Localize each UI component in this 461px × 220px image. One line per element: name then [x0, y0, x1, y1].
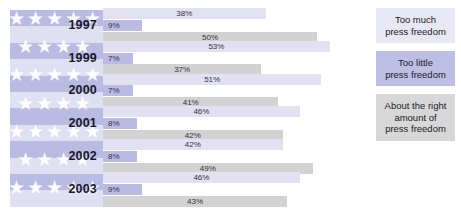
legend-item-too-much-line1: Too much	[378, 14, 453, 26]
bar-value-2000-toomuch: 51%	[103, 74, 321, 85]
legend-item-too-little[interactable]: Too little press freedom	[376, 51, 455, 86]
bar-value-2001-toomuch: 46%	[103, 106, 300, 117]
chart-legend: Too much press freedom Too little press …	[376, 8, 455, 149]
legend-item-about-right-line3: press freedom	[378, 123, 453, 135]
legend-item-about-right[interactable]: About the right amount of press freedom	[376, 94, 455, 141]
legend-item-too-little-line2: press freedom	[378, 69, 453, 81]
bar-value-2000-toolittle: 7%	[108, 85, 120, 96]
bar-value-2003-toomuch: 46%	[103, 172, 300, 183]
bar-value-2001-toolittle: 8%	[108, 118, 120, 129]
bar-value-2003-aboutright: 43%	[103, 196, 287, 207]
bar-value-1997-toolittle: 9%	[108, 20, 120, 31]
legend-item-about-right-line2: amount of	[378, 112, 453, 124]
legend-item-too-little-line1: Too little	[378, 57, 453, 69]
bar-value-2003-toolittle: 9%	[108, 184, 120, 195]
legend-item-too-much-line2: press freedom	[378, 26, 453, 38]
bar-value-1999-toomuch: 53%	[103, 41, 330, 52]
press-freedom-bar-chart: ★★★★★★★★★★★★★★★★★★★★★★★★★★★★★★★★ 1997199…	[0, 0, 461, 220]
bar-value-1999-toolittle: 7%	[108, 53, 120, 64]
legend-item-too-much[interactable]: Too much press freedom	[376, 8, 455, 43]
bar-value-1997-toomuch: 38%	[103, 8, 266, 19]
bar-value-2002-toomuch: 42%	[103, 139, 283, 150]
bar-value-2002-toolittle: 8%	[108, 151, 120, 162]
legend-item-about-right-line1: About the right	[378, 100, 453, 112]
